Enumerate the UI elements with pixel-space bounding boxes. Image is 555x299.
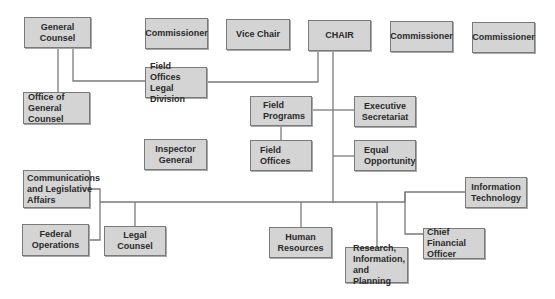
box-commissioner-2: Commissioner: [390, 21, 453, 52]
box-field-programs: Field Programs: [250, 96, 312, 126]
box-field-offices-legal-division: Field Offices Legal Division: [145, 67, 207, 98]
box-executive-secretariat: Executive Secretariat: [354, 96, 416, 127]
box-human-resources: Human Resources: [269, 227, 332, 258]
box-office-of-general-counsel: Office of General Counsel: [23, 92, 90, 124]
box-research-information-planning: Research, Information, and Planning: [345, 247, 408, 283]
box-federal-operations: Federal Operations: [22, 224, 89, 256]
box-inspector-general: Inspector General: [144, 139, 207, 170]
box-vice-chair: Vice Chair: [226, 19, 290, 50]
box-communications-legislative-affairs: Communications and Legislative Affairs: [23, 170, 90, 208]
box-equal-opportunity: Equal Opportunity: [354, 140, 416, 171]
box-general-counsel: General Counsel: [24, 17, 91, 48]
box-information-technology: Information Technology: [465, 177, 527, 208]
box-legal-counsel: Legal Counsel: [104, 226, 166, 256]
box-commissioner-1: Commissioner: [145, 18, 208, 49]
box-field-offices: Field Offices: [250, 140, 312, 171]
box-chair: CHAIR: [308, 20, 371, 51]
box-commissioner-3: Commissioner: [472, 22, 535, 53]
box-chief-financial-officer: Chief Financial Officer: [423, 228, 485, 259]
